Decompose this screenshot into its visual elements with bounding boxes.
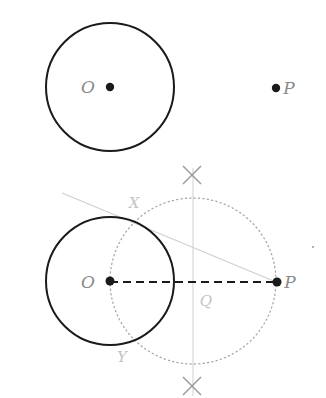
- arc-mark-cross-top: [183, 166, 201, 184]
- point-O-dot: [106, 83, 114, 91]
- label-P: P: [282, 78, 295, 98]
- point-P-dot: [273, 278, 282, 287]
- arc-mark-cross-bottom: [183, 377, 201, 395]
- point-P-dot: [272, 84, 280, 92]
- stray-dot: [312, 246, 314, 248]
- label-O: O: [81, 77, 95, 97]
- tangent-line-PX: [62, 193, 276, 282]
- label-P: P: [283, 272, 296, 292]
- label-Q: Q: [200, 292, 212, 310]
- bottom-figure: O P X Y Q: [46, 166, 314, 396]
- label-Y: Y: [117, 348, 129, 366]
- top-figure: O P: [46, 23, 295, 151]
- point-O-dot: [106, 277, 115, 286]
- label-X: X: [128, 194, 141, 212]
- label-O: O: [81, 272, 95, 292]
- tangent-construction-diagram: O P O P X Y Q: [0, 0, 326, 398]
